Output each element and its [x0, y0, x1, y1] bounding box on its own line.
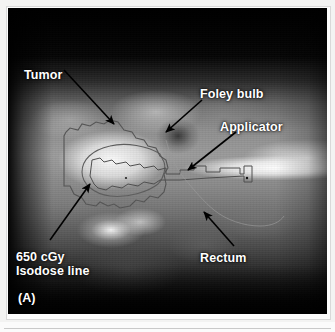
panel-letter: (A) [18, 291, 35, 305]
label-isodose-line: 650 cGy Isodose line [16, 250, 89, 278]
label-rectum: Rectum [200, 251, 246, 265]
figure-page: Tumor Foley bulb Applicator 650 cGy Isod… [0, 0, 335, 332]
applicator-arrow [188, 132, 236, 170]
isodose-arrow [50, 184, 90, 240]
applicator-tip-marker [246, 177, 248, 179]
foley-bulb-arrow [166, 100, 202, 132]
label-tumor: Tumor [24, 68, 62, 82]
page-bottom-margin [0, 322, 335, 332]
label-applicator: Applicator [220, 120, 283, 134]
page-bottom-rule [4, 328, 331, 329]
rectum-arrow [204, 212, 234, 246]
tumor-arrow [64, 70, 114, 124]
label-isodose-dose: 650 cGy [16, 250, 65, 264]
isodose-contour [82, 144, 165, 196]
label-foley-bulb: Foley bulb [200, 87, 264, 101]
applicator-contour [90, 158, 252, 190]
ultrasound-scan-image: Tumor Foley bulb Applicator 650 cGy Isod… [8, 8, 327, 314]
rectum-contour [166, 140, 284, 226]
label-isodose-text: Isodose line [16, 264, 89, 278]
applicator-source-marker [125, 177, 127, 179]
